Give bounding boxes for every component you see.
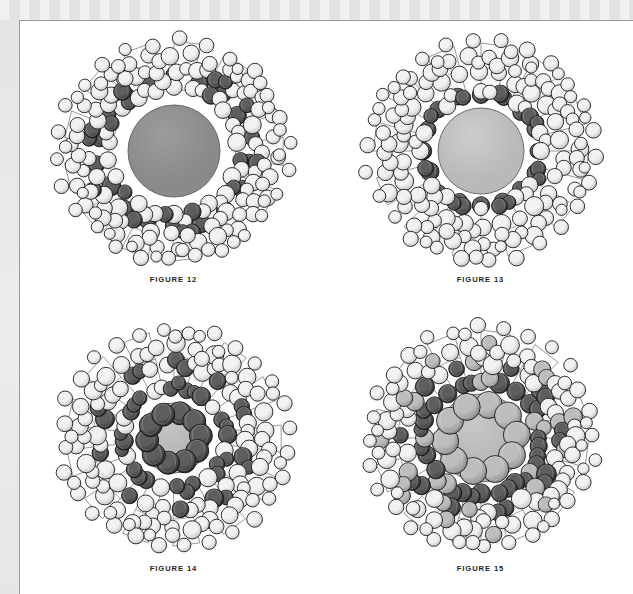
shell-atom — [575, 475, 591, 491]
shell-atom — [458, 328, 471, 341]
shell-atom — [168, 330, 181, 343]
shell-atom — [56, 465, 71, 480]
shell-atom — [410, 187, 426, 203]
shell-atom — [568, 122, 583, 137]
shell-atom — [545, 341, 558, 354]
shell-atom — [465, 535, 479, 549]
shell-atom — [157, 324, 170, 337]
shell-atom — [54, 179, 69, 194]
shell-atom — [112, 357, 129, 374]
shell-atom — [448, 361, 464, 377]
shell-atom — [423, 177, 440, 194]
shell-atom — [266, 387, 279, 400]
shell-atom — [403, 86, 416, 99]
shell-atom — [215, 244, 229, 258]
shell-atom — [201, 243, 215, 257]
shell-atom — [491, 198, 507, 214]
shell-atom — [56, 416, 72, 432]
shell-atom — [245, 493, 259, 507]
shell-atom — [373, 190, 386, 203]
shell-atom — [368, 113, 381, 126]
figure-12-illustration — [48, 29, 300, 281]
shell-atom — [218, 426, 236, 444]
shell-atom — [207, 326, 222, 341]
shell-atom — [274, 457, 286, 469]
shell-atom — [273, 124, 286, 137]
shell-atom — [270, 188, 282, 200]
shell-atom — [221, 507, 238, 524]
shell-atom — [214, 102, 231, 119]
shell-atom — [111, 60, 125, 74]
shell-atom — [438, 385, 456, 403]
shell-atom — [501, 536, 515, 550]
shell-atom — [573, 186, 585, 198]
shell-atom — [132, 329, 146, 343]
shell-atom — [58, 98, 72, 112]
shell-atom — [96, 367, 114, 385]
shell-atom — [150, 251, 161, 262]
shell-atom — [262, 492, 275, 505]
shell-atom — [555, 204, 566, 215]
shell-atom — [363, 435, 376, 448]
shell-atom — [222, 355, 241, 374]
shell-atom — [112, 381, 128, 397]
shell-atom — [532, 142, 549, 159]
shell-atom — [107, 169, 123, 185]
shell-atom — [225, 371, 238, 384]
shell-atom — [137, 495, 154, 512]
shell-atom — [73, 371, 89, 387]
shell-atom — [91, 221, 103, 233]
shell-atom — [482, 85, 496, 99]
shell-atom — [575, 440, 586, 451]
figure-15-caption: FIGURE 15 — [457, 564, 504, 573]
shell-atom — [243, 116, 261, 134]
shell-atom — [520, 329, 535, 344]
figure-14-illustration — [48, 316, 300, 568]
shell-atom — [255, 209, 267, 221]
shell-atom — [259, 88, 273, 102]
shell-atom — [473, 201, 487, 215]
shell-atom — [228, 341, 243, 356]
shell-atom — [265, 375, 278, 388]
shell-atom — [444, 89, 457, 102]
shell-atom — [273, 149, 285, 161]
shell-atom — [512, 211, 527, 226]
shell-atom — [59, 141, 72, 154]
shell-atom — [380, 470, 399, 489]
shell-atom — [588, 149, 603, 164]
shell-atom — [585, 123, 601, 139]
shell-atom — [525, 62, 536, 73]
shell-atom — [72, 398, 89, 415]
shell-atom — [441, 344, 458, 361]
shell-atom — [227, 236, 240, 249]
shell-atom — [87, 351, 100, 364]
shell-atom — [419, 523, 432, 536]
shell-atom — [89, 207, 101, 219]
shell-atom — [415, 52, 429, 66]
figure-14-caption: FIGURE 14 — [150, 564, 197, 573]
shell-atom — [212, 345, 225, 358]
figure-12-caption: FIGURE 12 — [150, 275, 197, 284]
shell-atom — [564, 91, 576, 103]
shell-atom — [106, 518, 122, 534]
shell-atom — [415, 125, 432, 142]
core-ring-atom — [453, 393, 480, 420]
shell-atom — [165, 528, 180, 543]
shell-atom — [182, 327, 195, 340]
shell-atom — [177, 538, 191, 552]
shell-atom — [78, 79, 90, 91]
shell-atom — [506, 354, 520, 368]
shell-atom — [388, 81, 400, 93]
shell-atom — [183, 45, 199, 61]
shell-atom — [104, 506, 117, 519]
shell-atom — [438, 38, 452, 52]
shell-atom — [372, 446, 385, 459]
shell-atom — [282, 163, 296, 177]
shell-atom — [495, 241, 506, 252]
shell-atom — [425, 354, 440, 369]
shell-atom — [406, 502, 420, 516]
shell-atom — [388, 211, 401, 224]
shell-atom — [88, 169, 105, 186]
shell-atom — [148, 340, 164, 356]
shell-atom — [367, 411, 380, 424]
